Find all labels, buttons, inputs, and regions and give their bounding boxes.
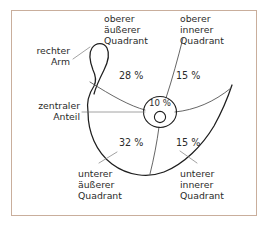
percentage-upper-outer: 28 % — [119, 70, 143, 81]
label-upper-outer-line3: Quadrant — [104, 35, 148, 46]
label-lower-outer-line1: unterer — [78, 168, 112, 179]
label-lower-outer-line3: Quadrant — [78, 190, 122, 201]
percentage-upper-inner: 15 % — [176, 70, 200, 81]
percentage-lower-inner: 15 % — [176, 137, 200, 148]
label-central-line1: zentraler — [38, 100, 80, 111]
percentage-lower-outer: 32 % — [119, 137, 143, 148]
label-lower-inner-line3: Quadrant — [180, 190, 224, 201]
label-upper-inner-line2: innerer — [180, 24, 213, 35]
divider-lower — [150, 127, 159, 174]
percentage-central: 10 % — [149, 98, 171, 108]
figure-root: oberer äußerer Quadrant oberer innerer Q… — [0, 0, 270, 229]
label-upper-outer-line1: oberer — [104, 13, 135, 24]
breast-quadrant-diagram: oberer äußerer Quadrant oberer innerer Q… — [0, 0, 270, 229]
label-lower-outer-line2: äußerer — [78, 179, 115, 190]
nipple-circle — [154, 111, 165, 122]
label-central-line2: Anteil — [53, 111, 80, 122]
divider-upper — [166, 38, 183, 98]
label-arm-line2: Arm — [51, 56, 70, 67]
label-upper-inner-line1: oberer — [180, 13, 211, 24]
label-lower-inner-line2: innerer — [180, 179, 213, 190]
divider-outer-left — [90, 82, 145, 110]
leader-line-arm — [73, 47, 90, 59]
label-arm-line1: rechter — [36, 45, 70, 56]
label-upper-inner-line3: Quadrant — [180, 35, 224, 46]
label-upper-outer-line2: äußerer — [104, 24, 141, 35]
label-lower-inner-line1: unterer — [180, 168, 214, 179]
right-arm-outline — [87, 44, 108, 113]
